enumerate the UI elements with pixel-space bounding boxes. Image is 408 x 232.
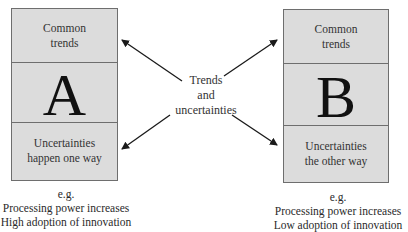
caption-line: High adoption of innovation <box>0 215 132 229</box>
label-line: Common <box>315 22 358 37</box>
caption-line: Low adoption of innovation <box>268 218 408 232</box>
scenario-b-caption: e.g. Processing power increases Low adop… <box>268 190 408 232</box>
label-line: Uncertainties <box>305 139 368 154</box>
label-line: uncertainties <box>170 103 242 118</box>
scenario-a-box: Common trends A Uncertainties happen one… <box>11 8 118 181</box>
caption-line: Processing power increases <box>268 204 408 218</box>
label-line: trends <box>315 37 358 52</box>
scenario-a-letter: A <box>12 62 117 123</box>
label-line: Common <box>43 21 86 36</box>
trends-and-uncertainties-label: Trends and uncertainties <box>170 73 242 118</box>
label-line: and <box>170 88 242 103</box>
scenario-b-uncertainties: Uncertainties the other way <box>284 125 388 182</box>
scenario-a-common-trends: Common trends <box>12 9 117 62</box>
arrow-to-b-top <box>224 40 277 76</box>
label-line: trends <box>43 36 86 51</box>
label-line: Uncertainties <box>27 136 102 151</box>
scenario-b-letter: B <box>284 63 388 126</box>
label-line: happen one way <box>27 151 102 166</box>
caption-line: Processing power increases <box>0 201 132 215</box>
scenario-a-uncertainties: Uncertainties happen one way <box>12 122 117 180</box>
arrow-to-a-bottom <box>122 115 170 149</box>
caption-line: e.g. <box>268 190 408 204</box>
scenario-b-common-trends: Common trends <box>284 10 388 64</box>
scenario-a-caption: e.g. Processing power increases High ado… <box>0 187 132 229</box>
scenario-b-box: Common trends B Uncertainties the other … <box>283 9 389 183</box>
label-line: Trends <box>170 73 242 88</box>
label-line: the other way <box>305 154 368 169</box>
arrow-to-b-bottom <box>232 115 277 145</box>
caption-line: e.g. <box>0 187 132 201</box>
